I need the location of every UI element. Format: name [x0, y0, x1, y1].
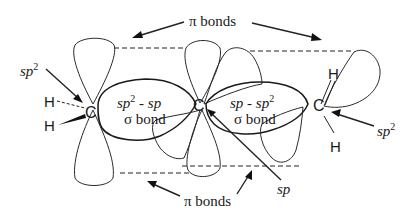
left-h-bottom-label: H [44, 117, 55, 134]
center-sp-label: sp [277, 181, 291, 197]
right-sp2-label: sp2 [377, 121, 395, 139]
right-sp2-arrow [337, 114, 374, 126]
right-h-top-bond-b [325, 81, 335, 105]
allene-orbital-diagram: C H H C C H H sp2 - sp σ bond sp - sp2 σ… [0, 0, 419, 217]
left-h-bottom-wedge-bond [58, 114, 86, 125]
pi-bonds-bottom-arrowhead-left [147, 181, 157, 188]
left-sp2-label: sp2 [20, 61, 38, 79]
left-p-orbital-bottom-lobe [74, 110, 113, 186]
left-p-orbital-top-lobe [74, 38, 115, 104]
pi-bonds-top-arrowhead-left [132, 31, 143, 38]
left-sigma-label-line1: sp2 - sp [117, 93, 162, 111]
pi-bonds-top-arrow-right [252, 23, 316, 38]
pi-bonds-top-arrow-left [138, 22, 184, 36]
pi-bonds-bottom-label: π bonds [184, 193, 231, 209]
left-sigma-label-line2: σ bond [124, 111, 166, 127]
pi-bonds-top-label: π bonds [189, 13, 236, 29]
right-sigma-label-line2: σ bond [234, 111, 276, 127]
pi-bonds-bottom-arrow-left [153, 184, 180, 196]
center-carbon-label: C [193, 97, 205, 114]
center-p-orbital-bottom-lobe [187, 110, 220, 177]
right-carbon-label: C [313, 97, 325, 114]
right-h-bottom-label: H [330, 138, 341, 155]
pi-bonds-top-arrowhead-right [311, 33, 322, 41]
right-h-bottom-bond [324, 116, 334, 133]
right-sp2-arrowhead [331, 109, 341, 117]
right-h-top-label: H [328, 65, 339, 82]
right-sigma-label-line1: sp - sp2 [230, 93, 274, 111]
left-carbon-label: C [85, 104, 97, 121]
left-h-top-label: H [44, 93, 55, 110]
